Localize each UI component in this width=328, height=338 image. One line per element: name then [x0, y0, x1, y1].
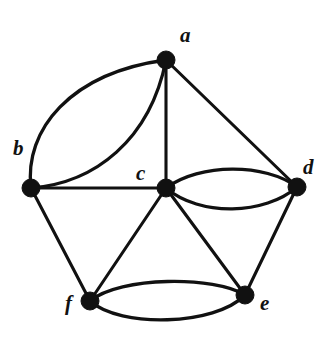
edge-e-f-upper	[90, 281, 245, 301]
edge-a-b-outer	[30, 60, 166, 188]
vertex-label-c: c	[136, 163, 145, 184]
vertex-b	[22, 179, 40, 197]
graph-figure: a b c d e f	[0, 0, 328, 338]
edge-c-d-upper	[166, 169, 297, 188]
vertex-label-d: d	[303, 157, 314, 178]
vertex-e	[236, 286, 254, 304]
vertex-label-e: e	[260, 293, 269, 314]
edge-c-e	[166, 188, 245, 295]
edge-b-f	[31, 188, 90, 301]
edge-e-f-lower	[90, 295, 245, 320]
vertex-d	[288, 178, 306, 196]
graph-canvas	[0, 0, 328, 338]
vertex-label-a: a	[180, 25, 191, 46]
vertex-label-f: f	[65, 293, 72, 314]
vertex-a	[157, 51, 175, 69]
vertex-f	[81, 292, 99, 310]
vertex-label-b: b	[13, 138, 24, 159]
edge-c-d-lower	[166, 187, 297, 209]
vertex-c	[157, 179, 175, 197]
